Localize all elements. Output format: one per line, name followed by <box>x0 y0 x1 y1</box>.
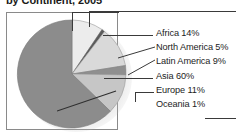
leader-line-europe-drop <box>135 92 136 102</box>
leader-line-europe-stub <box>72 13 73 31</box>
leader-line-asia <box>104 78 153 79</box>
leader-line-oceania-stub <box>89 13 90 27</box>
label-europe: Europe 11% <box>156 83 236 97</box>
chart-labels: Africa 14% North America 5% Latin Americ… <box>156 26 236 111</box>
leader-line-oceania-rail <box>89 11 236 12</box>
pie-svg <box>4 10 136 134</box>
pie-chart <box>4 10 136 134</box>
leader-line-africa <box>103 35 153 36</box>
label-asia: Asia 60% <box>156 69 236 83</box>
leader-line-latin-america <box>128 58 156 76</box>
leader-line-europe-rail <box>72 12 119 13</box>
label-oceania: Oceania 1% <box>156 97 236 111</box>
leader-line-asia-pointer <box>57 90 117 112</box>
chart-root: by Continent, 2005 <box>0 0 236 136</box>
label-latin-america: Latin America 9% <box>156 54 236 68</box>
chart-title: by Continent, 2005 <box>6 0 102 6</box>
label-africa: Africa 14% <box>156 26 236 40</box>
label-north-america: North America 5% <box>156 40 236 54</box>
leader-line-oceania-tail <box>205 118 236 119</box>
leader-line-europe-tail <box>135 92 154 93</box>
